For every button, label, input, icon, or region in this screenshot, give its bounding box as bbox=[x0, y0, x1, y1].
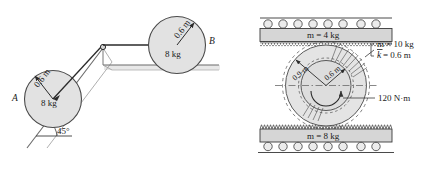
roller bbox=[279, 20, 287, 28]
roller bbox=[339, 20, 347, 28]
roller bbox=[339, 142, 347, 150]
disk-a-group: 0.6 m 8 kg A bbox=[11, 67, 82, 128]
gear-assembly: 0.9 m 0.6 m bbox=[275, 42, 378, 129]
top-assembly: m = 4 kg bbox=[260, 18, 392, 46]
bottom-rollers bbox=[264, 142, 380, 150]
roller bbox=[294, 142, 302, 150]
roller bbox=[324, 20, 332, 28]
disk-b-mass-label: 8 kg bbox=[165, 49, 181, 59]
apex-face-connector bbox=[103, 48, 112, 62]
gear-mass-label: m = 10 kg bbox=[377, 39, 414, 49]
top-rollers bbox=[264, 20, 380, 28]
roller bbox=[309, 142, 317, 150]
right-diagram: m = 4 kg m = 8 kg bbox=[258, 18, 414, 153]
mechanics-figure-svg: 45° 0.6 m 8 kg A 0.6 m 8 kg B bbox=[0, 0, 438, 171]
roller bbox=[372, 142, 380, 150]
torque-label: 120 N·m bbox=[378, 93, 410, 103]
roller bbox=[309, 20, 317, 28]
figure-root: 45° 0.6 m 8 kg A 0.6 m 8 kg B bbox=[0, 0, 438, 171]
bottom-rack-mass-label: m = 8 kg bbox=[307, 131, 340, 141]
bottom-assembly: m = 8 kg bbox=[258, 124, 394, 152]
disk-b-name-label: B bbox=[209, 36, 215, 46]
roller bbox=[357, 142, 365, 150]
gear-radius-of-gyration-group: k = 0.6 m bbox=[377, 50, 411, 60]
top-rack-mass-label: m = 4 kg bbox=[307, 30, 340, 40]
roller bbox=[294, 20, 302, 28]
roller bbox=[357, 20, 365, 28]
left-diagram: 45° 0.6 m 8 kg A 0.6 m 8 kg B bbox=[11, 17, 220, 149]
roller bbox=[372, 20, 380, 28]
roller bbox=[324, 142, 332, 150]
roller bbox=[264, 142, 272, 150]
incline-angle-label: 45° bbox=[57, 126, 70, 136]
gear-k-value: = 0.6 m bbox=[383, 50, 411, 60]
gear-k-symbol: k bbox=[377, 50, 382, 60]
roller bbox=[264, 20, 272, 28]
disk-a-name-label: A bbox=[11, 93, 18, 103]
roller bbox=[279, 142, 287, 150]
